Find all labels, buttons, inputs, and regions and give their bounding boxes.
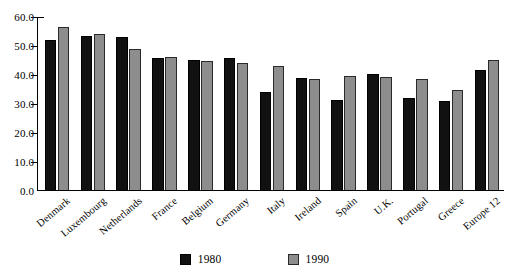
bar-1990 <box>488 60 500 191</box>
y-axis-tick-mark <box>31 46 38 47</box>
legend-label: 1980 <box>198 253 222 265</box>
x-axis-tick-label: France <box>150 195 179 222</box>
bar-group <box>188 17 213 191</box>
bar-group <box>260 17 285 191</box>
legend-item-1980: 1980 <box>180 253 222 265</box>
bar-1990 <box>416 79 428 191</box>
bar-1980 <box>296 78 308 191</box>
bar-1990 <box>201 61 213 192</box>
bar-1990 <box>380 77 392 191</box>
bar-1980 <box>331 100 343 191</box>
x-axis-tick-label: Italy <box>265 195 287 216</box>
bar-1990 <box>58 27 70 191</box>
bar-1990 <box>129 49 141 191</box>
x-axis: DenmarkLuxembourgNetherlandsFranceBelgiu… <box>38 191 504 247</box>
bar-group <box>439 17 464 191</box>
plot-area <box>38 17 504 191</box>
bar-1980 <box>367 74 379 191</box>
bar-1980 <box>439 101 451 191</box>
y-axis: 0.010.020.030.040.050.060.0 <box>0 0 36 200</box>
bar-1990 <box>94 34 106 191</box>
black-square-swatch <box>180 254 191 265</box>
bar-1980 <box>81 36 93 191</box>
bar-1980 <box>152 58 164 191</box>
x-axis-tick-label: Belgium <box>180 195 215 227</box>
bar-1980 <box>188 60 200 191</box>
y-axis-tick-mark <box>31 133 38 134</box>
x-axis-tick-label: Portugal <box>395 195 430 227</box>
bar-group <box>224 17 249 191</box>
bar-group <box>475 17 500 191</box>
bar-1990 <box>344 76 356 191</box>
bar-1980 <box>403 98 415 191</box>
x-axis-tick-label: Ireland <box>293 195 323 223</box>
x-axis-tick-label: Spain <box>333 195 359 219</box>
bar-group <box>152 17 177 191</box>
bar-chart: 0.010.020.030.040.050.060.0 DenmarkLuxem… <box>0 0 509 275</box>
bar-1980 <box>475 70 487 191</box>
chart-legend: 1980 1990 <box>0 248 509 270</box>
y-axis-tick-mark <box>31 162 38 163</box>
bar-group <box>403 17 428 191</box>
bar-1990 <box>309 79 321 191</box>
bar-1990 <box>452 90 464 192</box>
y-axis-tick-mark <box>31 104 38 105</box>
bar-group <box>331 17 356 191</box>
bar-1980 <box>116 37 128 191</box>
bar-1990 <box>237 63 249 191</box>
bar-1980 <box>224 58 236 191</box>
bar-1990 <box>273 66 285 191</box>
x-axis-tick-label: Europe 12 <box>461 195 502 232</box>
gray-square-swatch <box>288 254 299 265</box>
bar-group <box>296 17 321 191</box>
x-axis-tick-label: Greece <box>436 195 466 223</box>
y-axis-tick-mark <box>31 75 38 76</box>
legend-label: 1990 <box>306 253 330 265</box>
y-axis-tick-label: 0.0 <box>20 186 34 197</box>
bar-group <box>367 17 392 191</box>
bar-1990 <box>165 57 177 191</box>
y-axis-tick-mark <box>31 17 38 18</box>
x-axis-tick-label: Germany <box>214 195 252 229</box>
bar-group <box>116 17 141 191</box>
x-axis-tick-label: U.K. <box>372 195 395 217</box>
bar-group <box>81 17 106 191</box>
legend-item-1990: 1990 <box>288 253 330 265</box>
bar-1980 <box>260 92 272 191</box>
bar-1980 <box>45 40 57 191</box>
bar-group <box>45 17 70 191</box>
